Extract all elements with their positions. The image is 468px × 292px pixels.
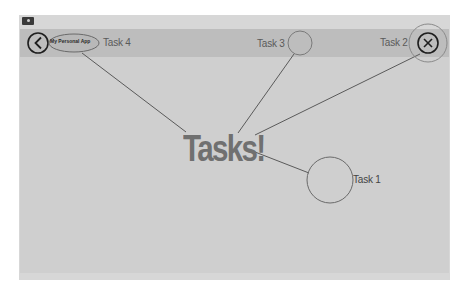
task-2-label[interactable]: Task 2 — [380, 37, 408, 48]
task-1-circle-button[interactable] — [307, 157, 353, 203]
close-button[interactable] — [409, 24, 447, 62]
task-1-label[interactable]: Task 1 — [353, 174, 381, 185]
connector-task-3 — [238, 54, 294, 133]
app-name[interactable]: My Personal App — [50, 38, 90, 44]
back-button[interactable] — [28, 33, 48, 53]
task-3-label[interactable]: Task 3 — [257, 38, 285, 49]
task-3-circle-button[interactable] — [288, 31, 312, 55]
page-title: Tasks! — [183, 128, 265, 170]
task-4-label[interactable]: Task 4 — [103, 37, 131, 48]
connector-task-2 — [255, 54, 420, 135]
connector-app-name — [82, 53, 186, 132]
